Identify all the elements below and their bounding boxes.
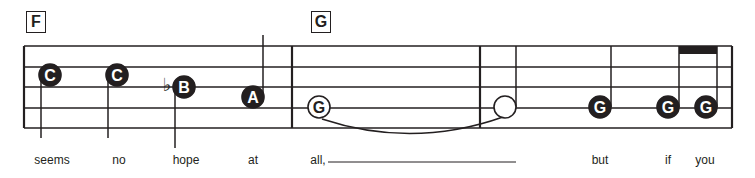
note-letter: G [700, 99, 712, 116]
lyric-word: hope [173, 153, 200, 167]
rehearsal-mark: F [26, 11, 46, 33]
note-letter: G [594, 99, 606, 116]
lyric-word: no [112, 153, 125, 167]
note-letter: C [111, 67, 123, 84]
note-letter: B [178, 79, 190, 96]
lyric-word: at [248, 153, 258, 167]
note-head [494, 96, 516, 118]
lyric-word: if [665, 153, 671, 167]
note-letter: C [44, 67, 56, 84]
note-letter: G [313, 99, 325, 116]
note-letter: G [662, 99, 674, 116]
lyric-word: you [695, 153, 714, 167]
note-letter: A [247, 89, 259, 106]
lyric-word: seems [34, 153, 69, 167]
beam [679, 46, 717, 54]
flat-icon: ♭ [163, 74, 172, 95]
lyric-word: but [592, 153, 609, 167]
tie-curve [322, 117, 503, 134]
lyric-word: all, [310, 153, 325, 167]
rehearsal-mark: G [311, 11, 331, 33]
music-staff: CCB♭AGGGG [0, 0, 755, 178]
